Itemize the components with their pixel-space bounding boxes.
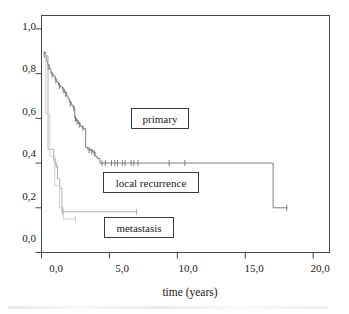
x-axis-ticks xyxy=(42,253,314,259)
y-tick-label-0-4: 0,4 xyxy=(6,147,36,159)
x-tick-label-5: 5,0 xyxy=(102,262,142,274)
x-tick-label-0: 0,0 xyxy=(36,262,76,274)
kaplan-meier-survival-figure: 1,0 0,8 0,6 0,4 0,2 0,0 0,0 5,0 10,0 15,… xyxy=(0,0,349,314)
y-tick-label-0-2: 0,2 xyxy=(6,190,36,202)
y-axis-ticks xyxy=(36,29,42,253)
x-axis-title: time (years) xyxy=(120,286,260,298)
legend-box-metastasis: metastasis xyxy=(104,217,174,238)
plot-frame xyxy=(42,16,330,253)
x-tick-label-20: 20,0 xyxy=(300,262,340,274)
y-tick-label-1-0: 1,0 xyxy=(6,20,36,32)
legend-box-primary: primary xyxy=(131,108,189,129)
y-tick-label-0-6: 0,6 xyxy=(6,105,36,117)
x-tick-label-10: 10,0 xyxy=(168,262,208,274)
x-tick-label-15: 15,0 xyxy=(234,262,274,274)
y-tick-label-0-0: 0,0 xyxy=(6,232,36,244)
legend-box-local-recurrence: local recurrence xyxy=(103,172,199,193)
scan-artifact xyxy=(8,306,328,309)
y-tick-label-0-8: 0,8 xyxy=(6,62,36,74)
